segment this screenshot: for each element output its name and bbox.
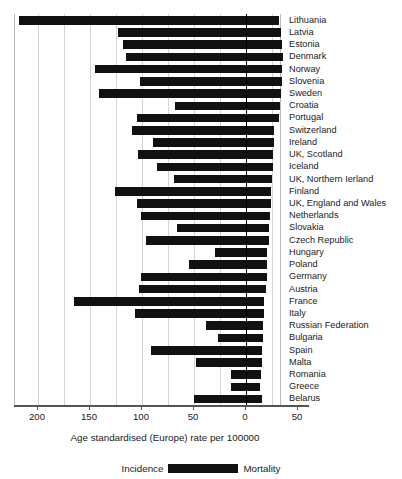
mortality-bar xyxy=(246,395,262,404)
category-label: Portugal xyxy=(289,113,323,122)
chart-legend: Incidence Mortality xyxy=(0,463,402,474)
legend-label-mortality: Mortality xyxy=(243,463,280,474)
bar-row xyxy=(15,319,280,331)
mortality-bar xyxy=(246,321,263,330)
bar-row xyxy=(15,124,280,136)
x-axis-line xyxy=(14,405,309,407)
mortality-bar xyxy=(246,358,262,367)
category-label: UK, Scotland xyxy=(289,150,343,159)
bar-row xyxy=(15,38,280,50)
bar-row xyxy=(15,173,280,185)
incidence-bar xyxy=(175,102,246,111)
incidence-bar xyxy=(138,150,246,159)
bar-row xyxy=(15,75,280,87)
mortality-bar xyxy=(246,297,264,306)
mortality-bar xyxy=(246,346,262,355)
incidence-bar xyxy=(139,285,246,294)
bar-row xyxy=(15,307,280,319)
category-label: Estonia xyxy=(289,40,320,49)
bar-row xyxy=(15,295,280,307)
incidence-bar xyxy=(146,236,246,245)
mortality-bar xyxy=(246,16,279,25)
category-label: Denmark xyxy=(289,52,326,61)
category-label: Slovakia xyxy=(289,223,324,232)
x-axis-tick xyxy=(37,405,38,410)
bar-row xyxy=(15,63,280,75)
mortality-bar xyxy=(246,175,272,184)
x-axis-tick xyxy=(245,405,246,410)
category-labels-group: LithuaniaLatviaEstoniaDenmarkNorwaySlove… xyxy=(289,14,402,405)
category-label: Italy xyxy=(289,309,306,318)
incidence-bar xyxy=(141,212,246,221)
bar-row xyxy=(15,112,280,124)
incidence-bar xyxy=(194,395,246,404)
incidence-bar xyxy=(157,163,246,172)
incidence-bar xyxy=(177,224,246,233)
x-axis-tick xyxy=(193,405,194,410)
category-label: UK, Northern Ierland xyxy=(289,175,373,184)
mortality-bar xyxy=(246,187,271,196)
category-label: Romania xyxy=(289,370,326,379)
mortality-bar xyxy=(246,89,281,98)
bar-row xyxy=(15,381,280,393)
incidence-bar xyxy=(151,346,246,355)
mortality-bar xyxy=(246,248,267,257)
category-label: Austria xyxy=(289,285,318,294)
plot-area xyxy=(14,14,281,405)
category-label: Switzerland xyxy=(289,126,337,135)
category-label: Czech Republic xyxy=(289,236,353,245)
mortality-bar xyxy=(246,370,261,379)
category-label: Ireland xyxy=(289,138,317,147)
bar-row xyxy=(15,185,280,197)
incidence-bar xyxy=(218,334,246,343)
chart-figure: LithuaniaLatviaEstoniaDenmarkNorwaySlove… xyxy=(0,0,402,479)
incidence-bar xyxy=(215,248,246,257)
x-axis-tick xyxy=(89,405,90,410)
bar-row xyxy=(15,87,280,99)
category-label: Slovenia xyxy=(289,77,324,86)
incidence-bar xyxy=(189,260,246,269)
mortality-bar xyxy=(246,65,282,74)
x-axis-tick-label: 150 xyxy=(69,412,109,422)
category-label: Netherlands xyxy=(289,211,339,220)
bar-row xyxy=(15,136,280,148)
mortality-bar xyxy=(246,102,280,111)
incidence-bar xyxy=(118,28,246,37)
incidence-bar xyxy=(19,16,246,25)
x-axis-tick xyxy=(297,405,298,410)
bar-row xyxy=(15,246,280,258)
mortality-bar xyxy=(246,77,282,86)
category-label: Belarus xyxy=(289,394,320,403)
mortality-bar xyxy=(246,28,281,37)
category-label: Iceland xyxy=(289,162,319,171)
mortality-bar xyxy=(246,236,269,245)
incidence-bar xyxy=(140,77,246,86)
bar-row xyxy=(15,393,280,405)
x-axis-tick-label: 50 xyxy=(277,412,317,422)
bar-row xyxy=(15,26,280,38)
bar-row xyxy=(15,332,280,344)
category-label: Latvia xyxy=(289,28,314,37)
mortality-bar xyxy=(246,138,274,147)
mortality-bar xyxy=(246,40,282,49)
category-label: Sweden xyxy=(289,89,322,98)
mortality-bar xyxy=(246,273,267,282)
x-axis-tick-label: 100 xyxy=(121,412,161,422)
x-axis-title: Age standardised (Europe) rate per 10000… xyxy=(0,432,330,443)
x-axis-tick-label: 0 xyxy=(225,412,265,422)
zero-axis-line xyxy=(246,14,247,405)
mortality-bar xyxy=(246,260,267,269)
mortality-bar xyxy=(246,383,260,392)
mortality-bar xyxy=(246,224,269,233)
bar-row xyxy=(15,368,280,380)
mortality-bar xyxy=(246,163,273,172)
category-label: Croatia xyxy=(289,101,319,110)
bar-row xyxy=(15,222,280,234)
mortality-bar xyxy=(246,212,270,221)
bar-row xyxy=(15,148,280,160)
category-label: Bulgaria xyxy=(289,333,323,342)
category-label: Poland xyxy=(289,260,318,269)
category-label: Norway xyxy=(289,65,320,74)
bar-row xyxy=(15,100,280,112)
bar-row xyxy=(15,14,280,26)
